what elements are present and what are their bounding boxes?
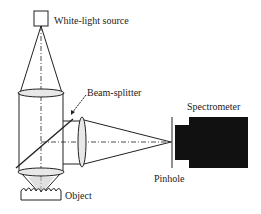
beam-splitter [16,119,73,168]
label-white-light-source: White-light source [54,15,129,26]
label-object: Object [65,190,92,201]
source-cone-right [41,26,62,93]
label-pinhole: Pinhole [154,173,185,184]
label-beam-splitter: Beam-splitter [87,87,142,98]
spectrometer [189,117,248,168]
focus-cone-bottom [84,142,171,164]
focus-cone-top [84,120,171,142]
focusing-lens [78,117,86,167]
beam-splitter-pointer [72,95,86,113]
collimating-lens [18,89,64,97]
source-cone-left [20,26,41,93]
pointer-arrowhead [71,110,75,115]
label-spectrometer: Spectrometer [187,101,241,112]
spectrometer-input [175,125,191,160]
white-light-source [34,11,48,26]
optical-diagram: White-light source Beam-splitter Pinhole… [0,0,261,214]
objective-lens [18,168,64,176]
